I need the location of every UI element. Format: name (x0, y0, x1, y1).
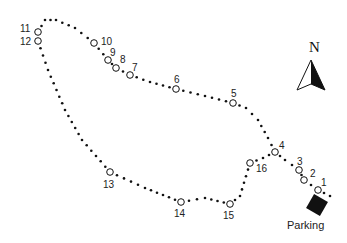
trail-stop-9: 9 (105, 47, 116, 63)
trail-dot (116, 174, 119, 177)
stop-label: 16 (256, 163, 268, 174)
stop-marker-icon (107, 169, 114, 176)
stop-marker-icon (296, 167, 303, 174)
trail-dot (90, 149, 93, 152)
trail-dot (155, 83, 158, 86)
trail-dot (210, 198, 213, 201)
trail-stop-11: 11 (20, 23, 41, 35)
trail-dot (241, 188, 244, 191)
stop-marker-icon (272, 149, 279, 156)
stop-label: 4 (279, 140, 285, 151)
trail-dot (218, 98, 221, 101)
trail-dot (58, 95, 61, 98)
trail-dot (204, 95, 207, 98)
trail-dot (196, 198, 199, 201)
trail-dot (52, 82, 55, 85)
trail-dot (130, 180, 133, 183)
trail-dot (55, 89, 58, 92)
trail-dot (85, 144, 88, 147)
trail-dot (142, 78, 145, 81)
stop-marker-icon (35, 29, 42, 36)
stop-marker-icon (227, 201, 234, 208)
trail-stop-4: 4 (272, 140, 285, 155)
stop-label: 3 (297, 156, 303, 167)
trail-dot (279, 155, 282, 158)
trail-dot (104, 165, 107, 168)
trail-dot (189, 91, 192, 94)
trail-dot (182, 90, 185, 93)
trail-stop-16: 16 (247, 160, 268, 174)
trail-dot (262, 157, 265, 160)
trail-dot (329, 195, 332, 198)
trail-stop-1: 1 (315, 177, 327, 193)
trail-dot (197, 93, 200, 96)
trail-dot (245, 175, 248, 178)
trail-dot (77, 133, 80, 136)
trail-dot (67, 24, 70, 27)
trail-dot (61, 21, 64, 24)
trail-dot (156, 191, 159, 194)
trail-dot (99, 160, 102, 163)
parking-marker: Parking (287, 194, 328, 231)
trail-dot (47, 69, 50, 72)
trail-dot (291, 164, 294, 167)
trail-stop-15: 15 (223, 201, 235, 221)
trail-dot (67, 115, 70, 118)
trail-dot (122, 70, 125, 73)
trail-dot (263, 131, 266, 134)
trail-dot (234, 199, 237, 202)
stop-marker-icon (230, 100, 237, 107)
stop-marker-icon (247, 160, 254, 167)
trail-stop-12: 12 (20, 36, 41, 47)
trail-dot (245, 107, 248, 110)
north-label: N (309, 39, 320, 55)
trail-dot (323, 192, 326, 195)
north-arrow: N (297, 39, 325, 90)
trail-dot (268, 154, 271, 157)
stop-label: 13 (103, 179, 115, 190)
trail-dot (135, 76, 138, 79)
stop-label: 7 (132, 62, 138, 73)
parking-icon (306, 194, 328, 216)
trail-dot (86, 37, 89, 40)
trail-dot (150, 189, 153, 192)
trail-dotted-path (37, 19, 332, 206)
trail-dot (310, 184, 313, 187)
stop-label: 8 (120, 54, 126, 65)
stop-marker-icon (173, 86, 180, 93)
trail-stop-2: 2 (301, 168, 316, 183)
trail-stop-13: 13 (103, 169, 115, 190)
trail-dot (123, 177, 126, 180)
trail-dot (111, 63, 114, 66)
trail-dot (42, 54, 45, 57)
trail-stop-10: 10 (91, 36, 113, 47)
trail-dot (81, 139, 84, 142)
stop-label: 6 (174, 74, 180, 85)
trail-dot (243, 182, 246, 185)
trail-dot (50, 75, 53, 78)
stop-label: 9 (110, 47, 116, 58)
trail-dot (251, 113, 254, 116)
trail-stop-6: 6 (173, 74, 180, 92)
trail-dot (102, 53, 105, 56)
stop-marker-icon (91, 40, 98, 47)
stop-label: 14 (174, 208, 186, 219)
trail-stop-3: 3 (296, 156, 303, 173)
trail-dot (174, 198, 177, 201)
trail-stops: 12345678910111213141516 (20, 23, 327, 221)
trail-dot (44, 19, 47, 22)
trail-dot (74, 127, 77, 130)
trail-dot (80, 32, 83, 35)
trail-stop-14: 14 (174, 199, 186, 219)
stop-label: 12 (20, 36, 32, 47)
trail-dot (284, 159, 287, 162)
trail-stop-7: 7 (127, 62, 138, 78)
stop-marker-icon (301, 177, 308, 184)
trail-dot (144, 187, 147, 190)
trail-dot (223, 201, 226, 204)
stop-label: 1 (321, 177, 327, 188)
trail-dot (239, 195, 242, 198)
trail-dot (168, 86, 171, 89)
parking-label: Parking (287, 219, 324, 231)
trail-dot (137, 184, 140, 187)
